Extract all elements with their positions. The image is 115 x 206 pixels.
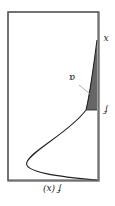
plot-frame xyxy=(8,12,99,181)
x-axis-label: x xyxy=(103,34,108,44)
critical-value-label: f xyxy=(103,105,109,115)
plot-frame xyxy=(8,12,98,180)
shaded-tail-area xyxy=(9,12,97,110)
f-distribution-figure: α f x f (x) xyxy=(0,0,115,206)
alpha-pointer xyxy=(79,85,90,94)
alpha-label: α xyxy=(69,73,75,83)
y-axis-label: f (x) xyxy=(42,184,62,194)
